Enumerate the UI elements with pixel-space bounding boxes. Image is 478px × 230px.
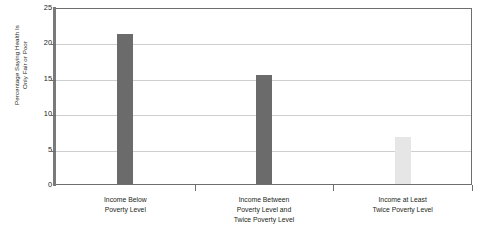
x-axis-tick-mark (195, 185, 196, 191)
x-axis-tick-mark (472, 185, 473, 191)
y-axis-title-line-1: Percentage Saying Health Is (13, 0, 21, 145)
y-axis-tick-mark (49, 80, 56, 81)
plot-area (56, 8, 472, 185)
y-axis-tick-label: 20 (30, 39, 52, 47)
bar (395, 137, 411, 184)
x-axis-category-label-line: Income Below (56, 195, 195, 205)
x-axis-category-label-line: Twice Poverty Level (195, 215, 334, 225)
x-axis-category-label-line: Income Between (195, 195, 334, 205)
bar (117, 34, 133, 184)
x-axis-category-label: Income BetweenPoverty Level andTwice Pov… (195, 195, 334, 225)
x-axis-category-label-line: Income at Least (333, 195, 472, 205)
x-axis-category-label-line: Poverty Level (56, 205, 195, 215)
x-axis-category-label-line: Poverty Level and (195, 205, 334, 215)
x-axis-category-label: Income at LeastTwice Poverty Level (333, 195, 472, 215)
y-axis-tick-label: 15 (30, 75, 52, 83)
y-axis-tick-mark (49, 115, 56, 116)
bar (256, 75, 272, 184)
x-axis-tick-mark (333, 185, 334, 191)
x-axis-category-label-line: Twice Poverty Level (333, 205, 472, 215)
x-axis-category-label: Income BelowPoverty Level (56, 195, 195, 215)
y-axis-tick-label: 0 (30, 181, 52, 189)
y-axis-tick-mark (49, 44, 56, 45)
y-axis-tick-label: 25 (30, 4, 52, 12)
y-axis-tick-mark (49, 151, 56, 152)
bar-chart: Percentage Saying Health Is Only Fair or… (0, 0, 478, 230)
y-axis-tick-label: 5 (30, 146, 52, 154)
y-axis-tick-label: 10 (30, 110, 52, 118)
